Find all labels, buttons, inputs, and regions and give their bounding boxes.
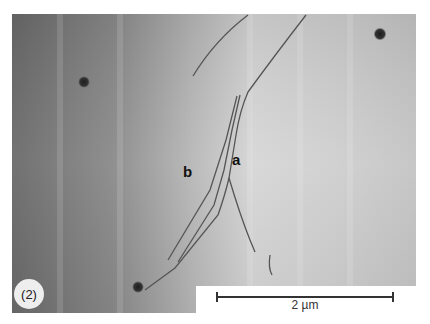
panel-label-text: (2) xyxy=(21,287,37,302)
figure: b a (2) 2 µm xyxy=(0,0,430,324)
feature-label-b: b xyxy=(183,163,192,180)
scale-bar-label: 2 µm xyxy=(216,298,394,312)
feature-label-a: a xyxy=(232,151,240,168)
panel-label: (2) xyxy=(14,279,44,309)
tem-micrograph xyxy=(0,0,430,324)
